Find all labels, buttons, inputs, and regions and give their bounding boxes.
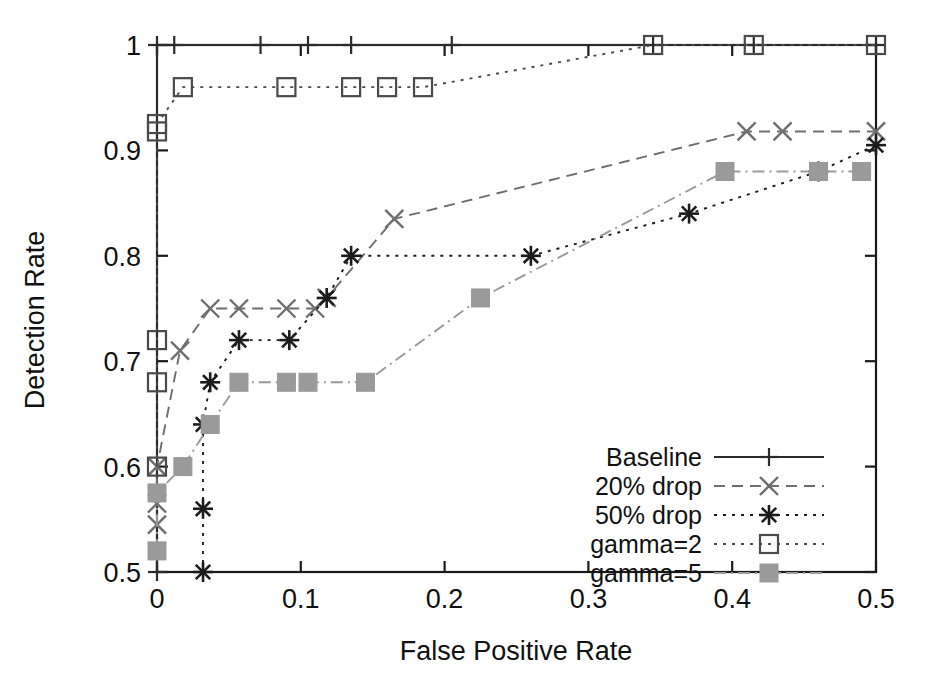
x-tick-label: 0.3 — [570, 584, 608, 614]
y-tick-label: 0.8 — [103, 242, 141, 272]
y-tick-label: 0.9 — [103, 136, 141, 166]
legend-label-gamma-5: gamma=5 — [590, 559, 702, 587]
y-tick-label: 0.7 — [103, 347, 141, 377]
data-point-marker — [277, 373, 295, 391]
x-tick-label: 0.4 — [713, 584, 751, 614]
data-point-marker — [809, 162, 827, 180]
y-tick-label: 1 — [126, 31, 141, 61]
x-tick-label: 0 — [149, 584, 164, 614]
legend-label-gamma-2: gamma=2 — [590, 530, 702, 558]
data-point-marker — [853, 162, 871, 180]
chart-svg: 00.10.20.30.40.5 0.50.60.70.80.91 False … — [0, 0, 934, 683]
x-tick-label: 0.1 — [282, 584, 320, 614]
data-point-marker — [201, 415, 219, 433]
y-tick-label: 0.6 — [103, 453, 141, 483]
legend-label-baseline: Baseline — [606, 443, 702, 471]
data-point-marker — [716, 162, 734, 180]
legend-label-50-drop: 50% drop — [595, 501, 702, 529]
roc-chart-figure: 00.10.20.30.40.5 0.50.60.70.80.91 False … — [0, 0, 934, 683]
data-point-marker — [472, 289, 490, 307]
x-axis-title: False Positive Rate — [400, 636, 633, 666]
y-axis-title: Detection Rate — [20, 231, 50, 410]
data-point-marker — [230, 373, 248, 391]
legend-label-20-drop: 20% drop — [595, 472, 702, 500]
y-tick-label: 0.5 — [103, 558, 141, 588]
data-point-marker — [299, 373, 317, 391]
data-point-marker — [174, 458, 192, 476]
x-tick-label: 0.5 — [857, 584, 895, 614]
data-point-marker — [760, 564, 778, 582]
data-point-marker — [357, 373, 375, 391]
x-tick-label: 0.2 — [426, 584, 464, 614]
data-point-marker — [148, 542, 166, 560]
data-point-marker — [148, 484, 166, 502]
